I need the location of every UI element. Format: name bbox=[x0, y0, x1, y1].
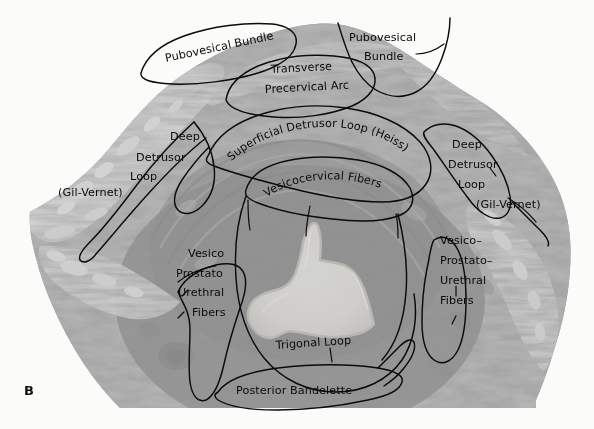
label-vpu-right-line1: Vesico– bbox=[440, 234, 482, 247]
label-vpu-right-line2: Prostato– bbox=[440, 254, 493, 267]
label-vpu-right-line3: Urethral bbox=[440, 274, 486, 287]
label-vpu-left-line1: Vesico bbox=[188, 247, 224, 260]
label-vpu-right-line4: Fibers bbox=[440, 294, 474, 307]
label-vpu-left-line4: Fibers bbox=[192, 306, 226, 319]
label-deep-detrusor-left-line3: Loop bbox=[130, 170, 157, 183]
label-deep-detrusor-right-line3: Loop bbox=[458, 178, 485, 191]
figure-panel-b: Pubovesical Bundle Pubovesical Bundle Tr… bbox=[0, 0, 594, 429]
label-posterior-bandelette: Posterior Bandelette bbox=[236, 384, 352, 397]
histology-figure-svg: Pubovesical Bundle Pubovesical Bundle Tr… bbox=[0, 0, 594, 429]
label-deep-detrusor-left-line1: Deep bbox=[170, 130, 200, 143]
label-deep-detrusor-right-line4: (Gil-Vernet) bbox=[476, 198, 541, 211]
panel-letter: B bbox=[24, 383, 34, 398]
label-deep-detrusor-left-line2: Detrusor bbox=[136, 151, 186, 164]
label-vpu-left-line2: Prostato bbox=[176, 267, 223, 280]
label-vpu-left-line3: Urethral bbox=[178, 286, 224, 299]
label-deep-detrusor-right-line2: Detrusor bbox=[448, 158, 498, 171]
label-pubovesical-bundle-right-line1: Pubovesical bbox=[349, 31, 416, 44]
label-pubovesical-bundle-right-line2: Bundle bbox=[364, 50, 404, 63]
label-deep-detrusor-right-line1: Deep bbox=[452, 138, 482, 151]
label-deep-detrusor-left-line4: (Gil-Vernet) bbox=[58, 186, 123, 199]
